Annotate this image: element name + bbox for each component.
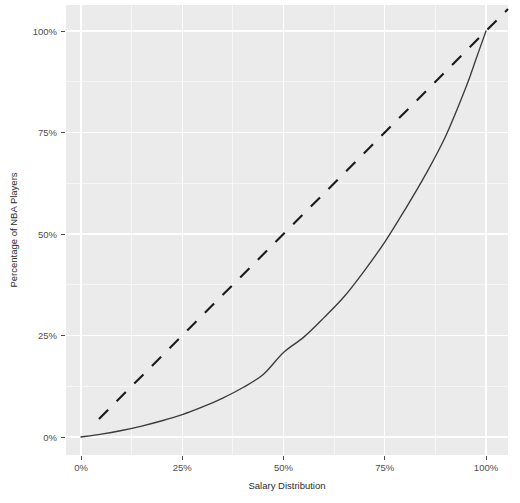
- y-axis-title: Percentage of NBA Players: [8, 172, 19, 287]
- y-tick-label: 50%: [38, 229, 58, 240]
- x-axis-ticks: 0%25%50%75%100%: [74, 456, 499, 473]
- x-tick-label: 0%: [74, 462, 88, 473]
- plot-panel-background: [66, 5, 508, 455]
- x-tick-label: 25%: [173, 462, 193, 473]
- y-axis-ticks: 0%25%50%75%100%: [33, 26, 65, 443]
- y-tick-label: 0%: [43, 432, 57, 443]
- y-tick-label: 75%: [38, 127, 58, 138]
- x-tick-label: 50%: [274, 462, 294, 473]
- x-tick-label: 100%: [474, 462, 499, 473]
- lorenz-curve-chart: 0%25%50%75%100% 0%25%50%75%100% Salary D…: [0, 0, 520, 503]
- y-tick-label: 100%: [33, 26, 58, 37]
- y-tick-label: 25%: [38, 330, 58, 341]
- x-tick-label: 75%: [375, 462, 395, 473]
- x-axis-title: Salary Distribution: [248, 480, 325, 491]
- chart-svg: 0%25%50%75%100% 0%25%50%75%100% Salary D…: [0, 0, 520, 503]
